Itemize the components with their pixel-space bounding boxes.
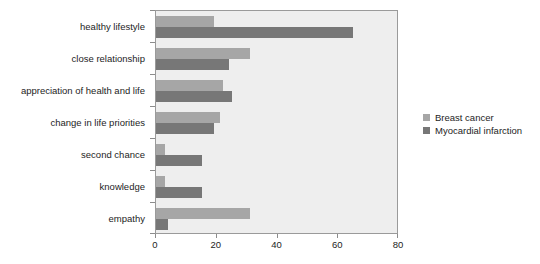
category-label: empathy: [0, 213, 145, 224]
legend-item: Breast cancer: [423, 111, 538, 124]
x-axis-tick-label: 60: [332, 239, 343, 251]
x-axis-tick-label: 0: [152, 239, 157, 251]
category-label: change in life priorities: [0, 117, 145, 128]
bar-chart: healthy lifestyleclose relationshipappre…: [0, 0, 540, 264]
x-axis-tick: [337, 234, 338, 238]
category-axis-labels: healthy lifestyleclose relationshipappre…: [0, 10, 150, 234]
x-axis-tick: [397, 234, 398, 238]
bar: [156, 16, 214, 27]
bar: [156, 155, 202, 166]
legend-item: Myocardial infarction: [423, 124, 538, 137]
category-label: second chance: [0, 149, 145, 160]
bar: [156, 59, 229, 70]
legend-label: Breast cancer: [435, 112, 494, 124]
x-axis-tick-labels: 020406080: [155, 239, 398, 253]
bar: [156, 144, 165, 155]
category-label: healthy lifestyle: [0, 21, 145, 32]
bar: [156, 80, 223, 91]
bar: [156, 123, 214, 134]
legend-swatch-icon: [423, 127, 430, 134]
bar: [156, 219, 168, 230]
legend-swatch-icon: [423, 114, 430, 121]
x-axis-tick-label: 40: [271, 239, 282, 251]
category-label: knowledge: [0, 181, 145, 192]
bar: [156, 187, 202, 198]
category-label: close relationship: [0, 53, 145, 64]
x-axis-tick: [216, 234, 217, 238]
bar: [156, 176, 165, 187]
bar: [156, 48, 250, 59]
category-label: appreciation of health and life: [0, 85, 145, 96]
x-axis-tick: [277, 234, 278, 238]
legend-label: Myocardial infarction: [435, 125, 522, 137]
bar: [156, 112, 220, 123]
x-axis-tick-label: 20: [210, 239, 221, 251]
bar: [156, 91, 232, 102]
legend: Breast cancerMyocardial infarction: [423, 111, 538, 137]
x-axis-tick-label: 80: [393, 239, 404, 251]
bars-layer: [156, 11, 397, 233]
bar: [156, 208, 250, 219]
plot-area: [155, 10, 398, 234]
bar: [156, 27, 353, 38]
x-axis-tick: [155, 234, 156, 238]
